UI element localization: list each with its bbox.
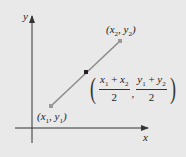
midpoint-formula: ( x1 + x2 2 , y1 + y2 2 ) — [88, 73, 178, 103]
point-p1-label: (x1, y1) — [37, 111, 67, 125]
fraction-x: x1 + x2 2 — [99, 73, 130, 103]
point-p1 — [49, 104, 53, 108]
point-p2 — [118, 39, 122, 43]
x-axis-label: x — [143, 132, 148, 143]
fraction-y: y1 + y2 2 — [136, 73, 167, 103]
point-p2-label: (x2, y2) — [106, 24, 136, 38]
y-axis-label: y — [23, 11, 28, 22]
